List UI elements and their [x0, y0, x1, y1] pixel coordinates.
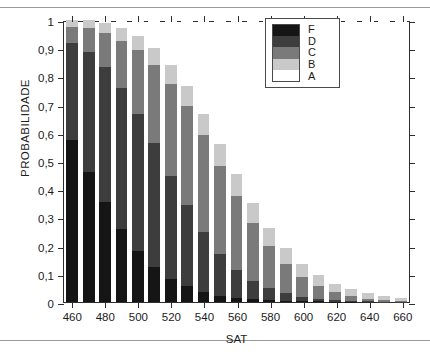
bar-segment-d: [214, 254, 226, 296]
y-tick-label: 0,9: [38, 44, 54, 56]
bar-segment-b: [214, 144, 226, 166]
bar-slot: [245, 22, 261, 302]
stacked-bar[interactable]: [395, 20, 407, 302]
stacked-bar[interactable]: [99, 20, 111, 302]
y-tick-label: 0,1: [38, 270, 54, 282]
bar-segment-b: [165, 65, 177, 84]
x-tick-mark: [204, 16, 205, 22]
bar-segment-c: [66, 27, 78, 43]
bar-slot: [228, 22, 244, 302]
x-tick-label: 640: [360, 311, 379, 323]
y-tick-mark: [58, 22, 64, 23]
bar-segment-b: [329, 284, 341, 292]
bar-segment-a: [116, 20, 128, 28]
bar-segment-f: [247, 299, 259, 302]
x-tick-label: 520: [162, 311, 181, 323]
bar-slot: [195, 22, 211, 302]
bar-segment-f: [66, 140, 78, 302]
bar-segment-c: [132, 50, 144, 114]
bar-slot: [392, 22, 408, 302]
bar-segment-c: [263, 246, 275, 288]
x-tick-mark: [238, 302, 239, 308]
stacked-bar[interactable]: [345, 20, 357, 302]
legend-label-b: B: [308, 59, 316, 70]
bar-slot: [376, 22, 392, 302]
y-tick-mark: [409, 304, 415, 305]
stacked-bar[interactable]: [231, 20, 243, 302]
bar-segment-b: [116, 28, 128, 40]
bar-segment-d: [181, 205, 193, 286]
bar-segment-d: [362, 301, 374, 302]
bar-segment-c: [329, 292, 341, 300]
bar-segment-d: [280, 293, 292, 300]
bar-segment-f: [165, 279, 177, 302]
bar-segment-c: [116, 41, 128, 88]
bar-segment-b: [263, 228, 275, 246]
bar-segment-f: [263, 300, 275, 302]
y-tick-mark: [58, 78, 64, 79]
bar-segment-b: [345, 289, 357, 296]
stacked-bar[interactable]: [83, 20, 95, 302]
stacked-bar[interactable]: [181, 20, 193, 302]
bar-slot: [146, 22, 162, 302]
stacked-bar[interactable]: [198, 20, 210, 302]
stacked-bar-chart-figure: PROBABILIDADE SAT 00,10,20,30,40,50,60,7…: [0, 0, 430, 357]
stacked-bar[interactable]: [362, 20, 374, 302]
x-tick-mark: [72, 16, 73, 22]
stacked-bar[interactable]: [378, 20, 390, 302]
y-axis-label: PROBABILIDADE: [19, 48, 31, 208]
x-tick-label: 580: [261, 311, 280, 323]
stacked-bar[interactable]: [116, 20, 128, 302]
bar-segment-a: [214, 20, 226, 144]
x-tick-mark: [171, 16, 172, 22]
bar-segment-a: [198, 20, 210, 114]
bar-segment-c: [313, 286, 325, 299]
bar-slot: [130, 22, 146, 302]
legend-label-c: C: [308, 47, 316, 58]
bar-segment-d: [99, 67, 111, 202]
legend-label-f: F: [308, 24, 316, 35]
x-tick-mark: [105, 302, 106, 308]
x-tick-label: 460: [63, 311, 82, 323]
y-tick-mark: [58, 107, 64, 108]
bar-segment-f: [313, 301, 325, 302]
y-tick-mark: [409, 163, 415, 164]
y-tick-mark: [409, 22, 415, 23]
stacked-bar[interactable]: [132, 20, 144, 302]
bar-segment-f: [214, 296, 226, 302]
x-tick-mark: [105, 16, 106, 22]
x-tick-mark: [370, 16, 371, 22]
y-tick-mark: [409, 107, 415, 108]
bar-segment-c: [181, 106, 193, 205]
bar-slot: [360, 22, 376, 302]
bar-segment-b: [198, 114, 210, 135]
legend-label-a: A: [308, 71, 316, 82]
bar-slot: [97, 22, 113, 302]
bar-segment-a: [378, 20, 390, 296]
bar-segment-d: [83, 52, 95, 173]
y-tick-mark: [58, 191, 64, 192]
x-tick-mark: [304, 302, 305, 308]
bar-segment-c: [148, 65, 160, 143]
bar-segment-b: [99, 23, 111, 33]
y-tick-label: 0,2: [38, 242, 54, 254]
stacked-bar[interactable]: [247, 20, 259, 302]
bar-segment-b: [181, 86, 193, 106]
bar-segment-d: [247, 281, 259, 299]
bar-segment-a: [148, 20, 160, 48]
y-tick-mark: [409, 219, 415, 220]
stacked-bar[interactable]: [66, 20, 78, 302]
stacked-bar[interactable]: [148, 20, 160, 302]
stacked-bar[interactable]: [214, 20, 226, 302]
bar-slot: [163, 22, 179, 302]
stacked-bar[interactable]: [165, 20, 177, 302]
bar-segment-c: [198, 135, 210, 232]
bar-segment-b: [148, 48, 160, 65]
x-tick-label: 500: [129, 311, 148, 323]
bar-slot: [64, 22, 80, 302]
bar-slot: [80, 22, 96, 302]
legend-swatch-f: [273, 25, 299, 36]
plot-area: 00,10,20,30,40,50,60,70,80,91 4604805005…: [63, 21, 410, 303]
bar-slot: [343, 22, 359, 302]
bar-segment-b: [83, 20, 95, 28]
